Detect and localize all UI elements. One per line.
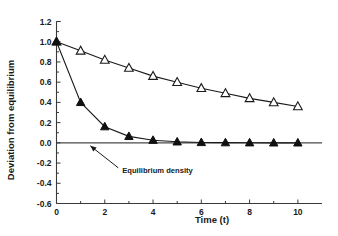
- y-tick-label: 0.4: [40, 97, 52, 107]
- x-tick-label: 2: [102, 207, 107, 217]
- x-tick-label: 8: [247, 207, 252, 217]
- y-tick-label: 0.8: [40, 57, 52, 67]
- x-tick-label: 10: [293, 207, 303, 217]
- y-tick-label: -0.4: [37, 178, 52, 188]
- y-tick-label: -0.6: [37, 199, 52, 209]
- y-tick-label: 0.0: [40, 138, 52, 148]
- y-axis-title: Deviation from equilibrium: [5, 60, 16, 180]
- equilibrium-density-label: Equilibrium density: [122, 166, 193, 175]
- x-axis-title: Time (t): [195, 214, 229, 225]
- y-tick-label: 0.2: [40, 118, 52, 128]
- x-tick-label: 4: [151, 207, 156, 217]
- y-tick-label: -0.2: [37, 158, 52, 168]
- y-tick-label: 1.0: [40, 37, 52, 47]
- y-tick-label: 1.2: [40, 17, 52, 27]
- y-tick-label: 0.6: [40, 77, 52, 87]
- deviation-from-equilibrium-chart: 0246810 1.21.00.80.60.40.20.0-0.2-0.4-0.…: [0, 0, 338, 236]
- x-tick-label: 0: [54, 207, 59, 217]
- chart-figure: 0246810 1.21.00.80.60.40.20.0-0.2-0.4-0.…: [0, 0, 338, 236]
